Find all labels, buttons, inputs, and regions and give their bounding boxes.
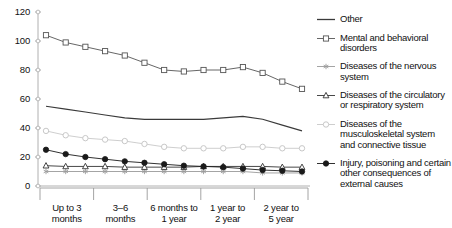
legend-item[interactable]: Other xyxy=(316,14,452,25)
x-axis-tick-label: 1 year to2 year xyxy=(201,202,255,224)
legend-item-label: Injury, poisoning and certain other cons… xyxy=(340,158,452,190)
legend-item-label: Diseases of the musculoskeletal system a… xyxy=(340,119,452,151)
legend-marker-open-circle-icon xyxy=(316,119,336,130)
legend-marker-open-triangle-icon xyxy=(316,90,336,101)
x-axis-tick-label-line: months xyxy=(40,213,94,224)
x-axis-tick-label: 2 year to5 year xyxy=(254,202,308,224)
chart-legend: OtherMental and behavioral disordersDise… xyxy=(316,14,452,197)
legend-item[interactable]: Diseases of the nervous system xyxy=(316,61,452,82)
legend-marker-filled-circle-icon xyxy=(316,158,336,169)
x-axis-tick-label-line: Up to 3 xyxy=(40,202,94,213)
x-axis-tick-label-line: 2 year to xyxy=(254,202,308,213)
x-axis-tick-label: 6 months to1 year xyxy=(147,202,201,224)
legend-marker-asterisk-icon xyxy=(316,61,336,72)
x-axis-tick-label: Up to 3months xyxy=(40,202,94,224)
series-1 xyxy=(43,33,304,92)
legend-marker-line-plain-icon xyxy=(316,14,336,25)
y-axis-tick-label: 100 xyxy=(4,36,30,46)
series-0 xyxy=(46,106,302,131)
y-axis-tick-label: 60 xyxy=(4,94,30,104)
y-axis-tick-label: 40 xyxy=(4,123,30,133)
x-axis-tick-label: 3–6months xyxy=(94,202,148,224)
legend-item[interactable]: Mental and behavioral disorders xyxy=(316,33,452,54)
y-axis-tick-label: 80 xyxy=(4,65,30,75)
legend-item[interactable]: Diseases of the musculoskeletal system a… xyxy=(316,119,452,151)
series-4 xyxy=(43,128,304,151)
x-axis-tick-label-line: 1 year to xyxy=(201,202,255,213)
x-axis-tick-label-line: 5 year xyxy=(254,213,308,224)
x-axis-tick-label-line: 1 year xyxy=(147,213,201,224)
series-3 xyxy=(43,163,305,170)
y-axis-tick-label: 0 xyxy=(4,181,30,191)
legend-item-label: Diseases of the nervous system xyxy=(340,61,452,82)
axes xyxy=(35,10,310,188)
legend-item-label: Mental and behavioral disorders xyxy=(340,33,452,54)
y-axis-tick-label: 120 xyxy=(4,7,30,17)
legend-marker-open-square-icon xyxy=(316,33,336,44)
x-axis-tick-label-line: 3–6 xyxy=(94,202,148,213)
legend-item-label: Other xyxy=(340,14,452,25)
x-axis-tick-label-line: 6 months to xyxy=(147,202,201,213)
legend-item[interactable]: Injury, poisoning and certain other cons… xyxy=(316,158,452,190)
legend-item-label: Diseases of the circulatory or respirato… xyxy=(340,90,452,111)
x-axis-tick-label-line: 2 year xyxy=(201,213,255,224)
line-chart: 120100806040200 Up to 3months3–6months6 … xyxy=(0,0,452,228)
series-5 xyxy=(43,147,304,174)
legend-item[interactable]: Diseases of the circulatory or respirato… xyxy=(316,90,452,111)
x-axis-tick-label-line: months xyxy=(94,213,148,224)
y-axis-tick-label: 20 xyxy=(4,152,30,162)
category-separators xyxy=(40,188,308,200)
